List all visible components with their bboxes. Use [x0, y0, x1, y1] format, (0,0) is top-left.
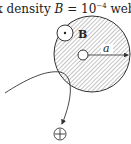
field-label: B: [78, 28, 87, 41]
magnetic-field-diagram: B a: [0, 0, 131, 144]
particle-trajectory: [5, 72, 70, 124]
field-direction-dot-icon: [64, 32, 66, 34]
center-circle: [78, 50, 88, 60]
radius-label: a: [103, 42, 110, 55]
